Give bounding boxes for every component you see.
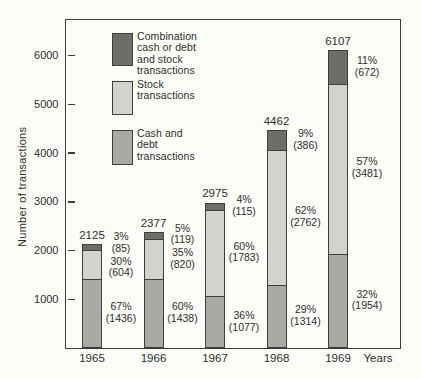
y-tick-label: 3000 (21, 195, 59, 208)
segment-annotation-cash: 36%(1077) (218, 310, 270, 333)
bar-total-label: 4462 (247, 115, 307, 128)
y-tick-label: 6000 (21, 49, 59, 62)
segment-annotation-combination: 3%(85) (95, 231, 147, 254)
legend-swatch-cash (112, 130, 133, 165)
bar-total-label: 6107 (308, 35, 368, 48)
segment-annotation-combination: 9%(386) (280, 128, 332, 151)
segment-annotation-cash: 32%(1954) (341, 289, 393, 312)
y-tick-label: 4000 (21, 147, 59, 160)
segment-annotation-stock: 62%(2762) (280, 205, 332, 228)
x-tick-label: 1969 (312, 352, 364, 364)
segment-annotation-combination: 5%(119) (157, 223, 209, 246)
y-tick-mark (68, 201, 75, 203)
segment-annotation-stock: 57%(3481) (341, 156, 393, 179)
segment-annotation-stock: 60%(1783) (218, 241, 270, 264)
y-tick-mark (68, 152, 75, 154)
segment-annotation-cash: 29%(1314) (280, 304, 332, 327)
legend-swatch-stock (112, 81, 133, 115)
legend-label-stock: Stocktransactions (137, 79, 195, 102)
x-tick-label: 1967 (189, 352, 241, 364)
segment-annotation-cash: 67%(1436) (95, 301, 147, 324)
x-tick-label: 1968 (251, 352, 303, 364)
x-tick-label: 1966 (128, 352, 180, 364)
segment-annotation-stock: 30%(604) (95, 256, 147, 279)
y-tick-mark (68, 104, 75, 106)
y-tick-mark (68, 299, 75, 301)
segment-annotation-combination: 11%(672) (341, 55, 393, 78)
y-tick-label: 1000 (21, 293, 59, 306)
y-tick-label: 2000 (21, 244, 59, 257)
stacked-bar-chart-figure: Number of transactions Years 10002000300… (0, 0, 422, 379)
segment-annotation-cash: 60%(1438) (157, 301, 209, 324)
legend-label-combination: Combinationcash or debtand stocktransact… (137, 31, 197, 77)
y-tick-label: 5000 (21, 98, 59, 111)
legend-label-cash: Cash anddebttransactions (137, 128, 195, 163)
segment-annotation-combination: 4%(115) (218, 194, 270, 217)
y-tick-mark (68, 55, 75, 57)
x-tick-label: 1965 (66, 352, 118, 364)
legend-swatch-combination (112, 33, 133, 66)
y-tick-mark (68, 250, 75, 252)
segment-annotation-stock: 35%(820) (157, 247, 209, 270)
